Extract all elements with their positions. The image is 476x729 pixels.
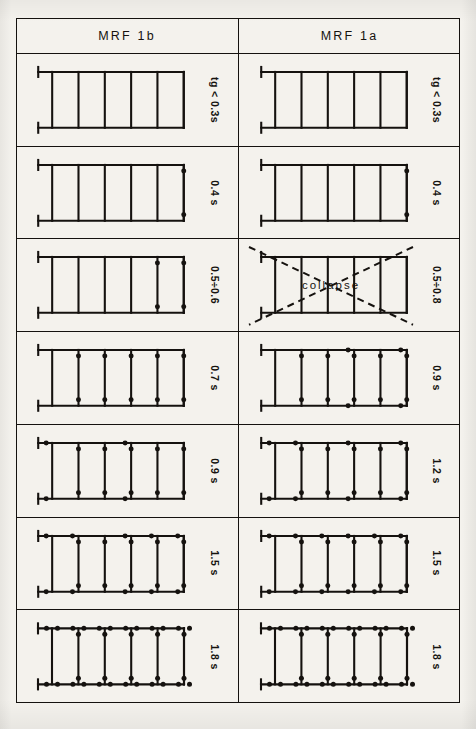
frame-sketch [22,332,194,424]
duration-label: 0.9 s [202,425,228,517]
frame-sketch [22,610,194,703]
frame-sketch [22,425,194,517]
frame-cell-mrf1a-row5: 1.2 s [238,425,460,518]
duration-label-text: 0.5÷0.8 [431,266,443,304]
frame-cell-mrf1b-row6: 1.5 s [16,518,238,611]
frame-cell-mrf1a-row7: 1.8 s [238,610,460,703]
frame-cell-mrf1a-row6: 1.5 s [238,518,460,611]
frame-sketch [22,147,194,239]
duration-label-text: tg < 0.3s [431,77,443,123]
frame-cell-mrf1b-row4: 0.7 s [16,332,238,425]
frame-cell-mrf1b-row5: 0.9 s [16,425,238,518]
duration-label-text: 0.4 s [209,180,221,205]
frame-sketch [22,239,194,331]
column-header-mrf1b: MRF 1b [16,18,238,53]
duration-label: tg < 0.3s [202,54,228,146]
duration-label: 0.9 s [424,332,450,424]
frame-cell-mrf1a-row4: 0.9 s [238,332,460,425]
duration-label-text: 1.5 s [431,551,443,576]
frame-cell-mrf1b-row7: 1.8 s [16,610,238,703]
frame-cell-mrf1a-row2: 0.4 s [238,147,460,240]
duration-label: tg < 0.3s [424,54,450,146]
frame-sketch [245,147,417,239]
duration-label-text: 0.5÷0.6 [209,266,221,304]
duration-label: 1.8 s [202,610,228,703]
frame-sketch [245,425,417,517]
frame-sketch [245,54,417,146]
duration-label: 0.4 s [424,147,450,239]
duration-label-text: 1.8 s [431,644,443,669]
frame-sketch [22,518,194,610]
duration-label: 0.5÷0.6 [202,239,228,331]
duration-label-text: 0.4 s [431,180,443,205]
duration-label-text: 1.8 s [209,644,221,669]
frame-cell-mrf1b-row3: 0.5÷0.6 [16,239,238,332]
frame-matrix: tg < 0.3stg < 0.3s0.4 s0.4 s0.5÷0.6colla… [16,54,460,703]
duration-label: 1.5 s [202,518,228,610]
frame-sketch [245,518,417,610]
duration-label: 0.7 s [202,332,228,424]
frame-sketch [245,610,417,703]
duration-label-text: 1.2 s [431,458,443,483]
duration-label: 1.5 s [424,518,450,610]
collapsed-frame-sketch: collapse [245,239,417,331]
frame-sketch [22,54,194,146]
duration-label: 1.2 s [424,425,450,517]
mrf-hinge-figure: MRF 1b MRF 1a tg < 0.3stg < 0.3s0.4 s0.4… [16,18,460,703]
frame-sketch [245,332,417,424]
duration-label-text: 1.5 s [209,551,221,576]
frame-cell-mrf1b-row2: 0.4 s [16,147,238,240]
duration-label: 0.4 s [202,147,228,239]
frame-cell-mrf1a-row3: collapse0.5÷0.8 [238,239,460,332]
duration-label-text: 0.9 s [431,365,443,390]
duration-label: 1.8 s [424,610,450,703]
figure-header-row: MRF 1b MRF 1a [16,18,460,54]
duration-label-text: 0.7 s [209,365,221,390]
duration-label: 0.5÷0.8 [424,239,450,331]
frame-cell-mrf1b-row1: tg < 0.3s [16,54,238,147]
column-header-mrf1a: MRF 1a [238,18,460,53]
duration-label-text: 0.9 s [209,458,221,483]
frame-cell-mrf1a-row1: tg < 0.3s [238,54,460,147]
duration-label-text: tg < 0.3s [209,77,221,123]
